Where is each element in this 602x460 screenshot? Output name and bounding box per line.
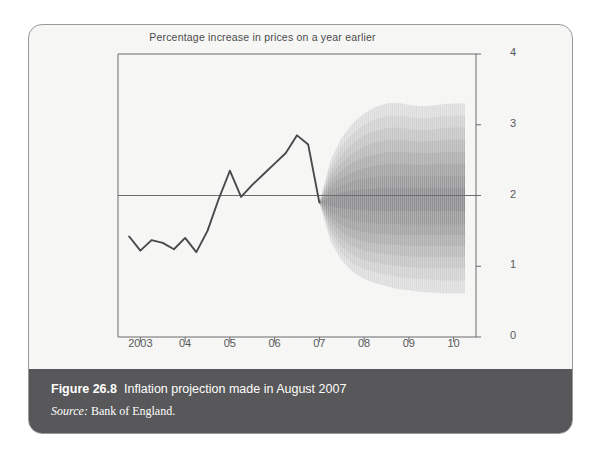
caption-source-value: Bank of England. bbox=[91, 404, 175, 418]
caption-figure-number: Figure 26.8 bbox=[51, 382, 117, 396]
y-tick-label: 0 bbox=[510, 329, 516, 341]
caption-source-label: Source: bbox=[51, 404, 88, 418]
y-tick-label: 2 bbox=[510, 188, 516, 200]
figure-card: Percentage increase in prices on a year … bbox=[28, 24, 573, 434]
x-tick-label: 06 bbox=[250, 337, 300, 349]
x-tick-label: 07 bbox=[294, 337, 344, 349]
x-tick-label: 04 bbox=[160, 337, 210, 349]
figure-caption: Figure 26.8Inflation projection made in … bbox=[29, 369, 573, 433]
x-tick-label: 09 bbox=[384, 337, 434, 349]
x-tick-label: 08 bbox=[339, 337, 389, 349]
caption-figure-title: Inflation projection made in August 2007 bbox=[124, 382, 346, 396]
caption-source: Source:Bank of England. bbox=[51, 404, 573, 419]
figure-screenshot: Percentage increase in prices on a year … bbox=[0, 0, 602, 460]
x-tick-label: 10 bbox=[429, 337, 479, 349]
history-line bbox=[129, 135, 319, 252]
inflation-fan-chart bbox=[29, 25, 573, 371]
series-line-group bbox=[129, 135, 319, 252]
y-tick-label: 4 bbox=[510, 46, 516, 58]
y-tick-label: 1 bbox=[510, 258, 516, 270]
caption-heading: Figure 26.8Inflation projection made in … bbox=[51, 382, 573, 396]
x-tick-label: 2003 bbox=[115, 337, 165, 349]
y-tick-label: 3 bbox=[510, 117, 516, 129]
chart-area: Percentage increase in prices on a year … bbox=[29, 25, 573, 371]
x-tick-label: 05 bbox=[205, 337, 255, 349]
